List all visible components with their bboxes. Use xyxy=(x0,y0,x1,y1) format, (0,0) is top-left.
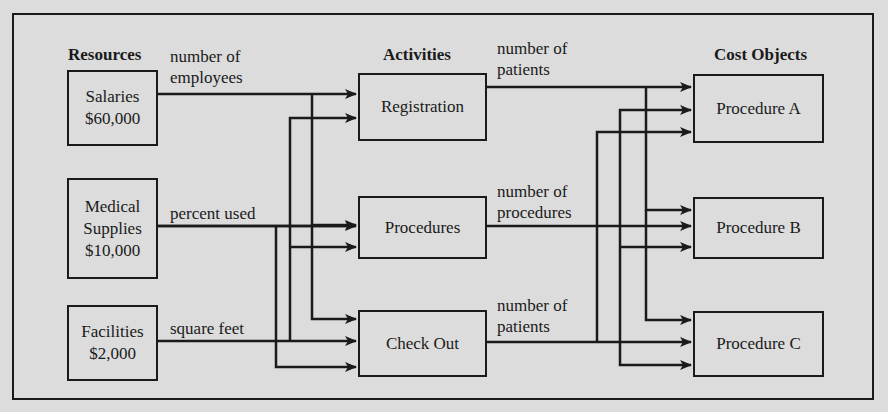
resource-amount: $10,000 xyxy=(85,240,140,262)
cost-object-procedure-a: Procedure A xyxy=(693,74,824,143)
resource-name: Salaries xyxy=(86,86,140,108)
cost-object-name: Procedure B xyxy=(716,217,801,239)
driver-label-employees: number of employees xyxy=(170,46,243,88)
resource-name: Facilities xyxy=(81,321,143,343)
activity-registration: Registration xyxy=(358,73,487,141)
activity-check-out: Check Out xyxy=(358,310,487,377)
cost-object-procedure-b: Procedure B xyxy=(693,197,824,259)
driver-label-square-feet: square feet xyxy=(170,318,244,339)
resources-heading: Resources xyxy=(68,45,141,65)
driver-label-procedures: number of procedures xyxy=(497,181,572,223)
driver-label-patients-2: number of patients xyxy=(497,295,567,337)
resource-name: Medical xyxy=(85,196,141,218)
resource-amount: $60,000 xyxy=(85,108,140,130)
cost-object-procedure-c: Procedure C xyxy=(693,311,824,377)
driver-label-patients-1: number of patients xyxy=(497,38,567,80)
resource-salaries: Salaries $60,000 xyxy=(67,70,158,146)
cost-objects-heading: Cost Objects xyxy=(714,45,807,65)
activity-name: Procedures xyxy=(385,217,461,239)
resource-amount: $2,000 xyxy=(89,343,136,365)
activity-name: Registration xyxy=(381,96,464,118)
cost-object-name: Procedure C xyxy=(716,333,801,355)
resource-medical-supplies: Medical Supplies $10,000 xyxy=(67,178,158,279)
resource-facilities: Facilities $2,000 xyxy=(67,305,158,381)
activity-name: Check Out xyxy=(386,333,459,355)
activity-procedures: Procedures xyxy=(358,196,487,259)
cost-object-name: Procedure A xyxy=(716,98,801,120)
driver-label-percent-used: percent used xyxy=(170,203,255,224)
resource-name-line2: Supplies xyxy=(83,218,142,240)
activities-heading: Activities xyxy=(383,45,451,65)
